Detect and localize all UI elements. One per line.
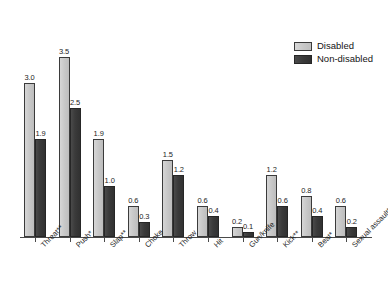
bar-non-disabled[interactable]: 1.9 — [35, 139, 46, 237]
bar-rect[interactable] — [104, 186, 115, 238]
bar-value-label: 1.0 — [105, 177, 115, 185]
bar-group: 0.20.1 — [232, 227, 254, 237]
axis-tick — [243, 238, 244, 242]
axis-tick — [277, 238, 278, 242]
legend: Disabled Non-disabled — [294, 41, 373, 64]
bar-rect[interactable] — [93, 139, 104, 237]
bar-value-label: 0.3 — [139, 213, 149, 221]
bar-value-label: 3.0 — [24, 74, 34, 82]
axis-tick — [208, 238, 209, 242]
bar-group: 0.80.4 — [301, 196, 323, 237]
bar-rect[interactable] — [301, 196, 312, 237]
bar-rect[interactable] — [70, 108, 81, 237]
bar-rect[interactable] — [208, 216, 219, 237]
bar-group: 3.52.5 — [59, 57, 81, 237]
legend-swatch-non-disabled — [294, 55, 312, 64]
bar-value-label: 1.9 — [35, 130, 45, 138]
axis-tick — [139, 238, 140, 242]
bar-rect[interactable] — [59, 57, 70, 237]
bar-value-label: 0.1 — [243, 223, 253, 231]
bar-value-label: 0.2 — [347, 218, 357, 226]
bar-value-label: 0.6 — [128, 197, 138, 205]
bar-non-disabled[interactable]: 1.2 — [173, 175, 184, 237]
bar-value-label: 0.4 — [208, 207, 218, 215]
bar-chart: 3.01.93.52.51.91.00.60.31.51.20.60.40.20… — [0, 0, 388, 301]
x-axis-label-text: Kick** — [281, 243, 287, 249]
x-axis-label-text: Choke — [143, 243, 149, 249]
x-axis-label-text: Throw — [177, 243, 183, 249]
bar-disabled[interactable]: 0.2 — [232, 227, 243, 237]
bar-value-label: 0.6 — [197, 197, 207, 205]
bar-value-label: 1.2 — [267, 166, 277, 174]
bar-rect[interactable] — [173, 175, 184, 237]
x-axis-label-text: Beat* — [316, 243, 322, 249]
bar-non-disabled[interactable]: 0.6 — [277, 206, 288, 237]
bar-rect[interactable] — [35, 139, 46, 237]
axis-tick — [173, 238, 174, 242]
bar-non-disabled[interactable]: 1.0 — [104, 186, 115, 238]
x-axis-label-text: Slap** — [108, 243, 114, 249]
bar-non-disabled[interactable]: 0.4 — [312, 216, 323, 237]
bar-disabled[interactable]: 0.6 — [335, 206, 346, 237]
bar-rect[interactable] — [162, 160, 173, 237]
bar-group: 1.51.2 — [162, 160, 184, 237]
axis-tick — [312, 238, 313, 242]
bar-group: 3.01.9 — [24, 83, 46, 238]
bar-value-label: 1.5 — [163, 151, 173, 159]
bar-disabled[interactable]: 0.6 — [197, 206, 208, 237]
bar-rect[interactable] — [197, 206, 208, 237]
bar-group: 0.60.3 — [128, 206, 150, 237]
bar-value-label: 0.4 — [312, 207, 322, 215]
bar-non-disabled[interactable]: 0.4 — [208, 216, 219, 237]
bar-group: 1.91.0 — [93, 139, 115, 237]
bar-rect[interactable] — [277, 206, 288, 237]
legend-item-non-disabled[interactable]: Non-disabled — [294, 54, 373, 64]
bar-group: 0.60.2 — [335, 206, 357, 237]
bar-value-label: 3.5 — [59, 48, 69, 56]
bar-rect[interactable] — [232, 227, 243, 237]
bar-rect[interactable] — [128, 206, 139, 237]
bar-non-disabled[interactable]: 0.3 — [139, 222, 150, 237]
legend-label-disabled: Disabled — [317, 41, 354, 51]
legend-item-disabled[interactable]: Disabled — [294, 41, 373, 51]
bar-rect[interactable] — [24, 83, 35, 238]
bar-disabled[interactable]: 0.8 — [301, 196, 312, 237]
bar-rect[interactable] — [312, 216, 323, 237]
x-axis-label-text: Sexual assault** — [350, 243, 356, 249]
legend-label-non-disabled: Non-disabled — [317, 54, 373, 64]
x-axis-label-text: Push* — [74, 243, 80, 249]
axis-tick — [104, 238, 105, 242]
bar-disabled[interactable]: 3.0 — [24, 83, 35, 238]
bar-value-label: 1.9 — [94, 130, 104, 138]
bar-disabled[interactable]: 3.5 — [59, 57, 70, 237]
bar-disabled[interactable]: 1.5 — [162, 160, 173, 237]
bar-disabled[interactable]: 0.6 — [128, 206, 139, 237]
bar-group: 0.60.4 — [197, 206, 219, 237]
bar-disabled[interactable]: 1.9 — [93, 139, 104, 237]
bar-value-label: 0.6 — [278, 197, 288, 205]
axis-tick — [70, 238, 71, 242]
bar-value-label: 2.5 — [70, 99, 80, 107]
x-axis-label-text: Gun/knife — [247, 243, 253, 249]
bar-value-label: 0.6 — [336, 197, 346, 205]
legend-swatch-disabled — [294, 42, 312, 51]
axis-tick — [35, 238, 36, 242]
x-axis-label-text: Threat** — [39, 243, 45, 249]
bar-value-label: 0.8 — [301, 187, 311, 195]
bar-rect[interactable] — [335, 206, 346, 237]
bar-rect[interactable] — [139, 222, 150, 237]
bar-non-disabled[interactable]: 2.5 — [70, 108, 81, 237]
axis-tick — [346, 238, 347, 242]
bar-value-label: 0.2 — [232, 218, 242, 226]
bar-value-label: 1.2 — [174, 166, 184, 174]
x-axis-label-text: Hit — [212, 243, 218, 249]
